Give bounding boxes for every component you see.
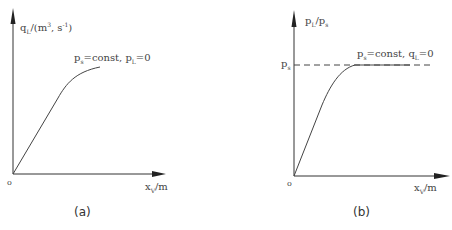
chart-b-origin-label: o	[287, 180, 292, 188]
chart-a-caption: (a)	[74, 205, 91, 219]
chart-b-y-arrow-icon	[292, 10, 297, 27]
chart-a-origin-label: o	[7, 179, 12, 187]
chart-b-y-label: pL/ps	[305, 16, 328, 28]
chart-b-x-label: xV/m	[414, 183, 437, 195]
chart-b-y-tick-ps: ps	[281, 59, 291, 71]
chart-b-caption: (b)	[353, 205, 370, 219]
chart-a-annotation: ps=const, pL=0	[74, 53, 151, 65]
chart-a-y-label: qL/(m3, s-1)	[20, 22, 72, 35]
chart-a-x-arrow-icon	[152, 171, 166, 177]
chart-b-annotation: ps=const, qL=0	[357, 49, 434, 61]
chart-b-x-arrow-icon	[434, 173, 450, 179]
chart-b	[292, 10, 451, 179]
chart-a-y-arrow-icon	[11, 8, 16, 24]
chart-a-x-label: xV/m	[145, 182, 168, 194]
chart-a-curve	[13, 67, 100, 174]
chart-b-curve	[294, 65, 410, 176]
